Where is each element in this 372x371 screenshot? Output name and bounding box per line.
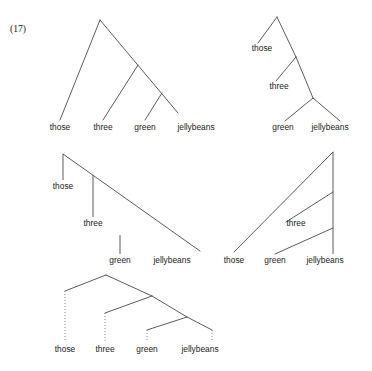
tree-branch-line [103, 65, 138, 120]
tree-branch-line [100, 20, 178, 113]
tree-branch-line [258, 17, 277, 43]
tree-5: thosethreegreenjellybeans [55, 275, 219, 354]
tree-4: thosegreenjellybeansthree [224, 152, 344, 265]
tree-word-label: those [252, 43, 273, 53]
tree-branch-line [106, 275, 152, 296]
tree-branch-line [147, 317, 187, 330]
tree-word-label: three [95, 344, 114, 354]
tree-branch-line [296, 57, 313, 98]
tree-word-label: those [53, 181, 74, 191]
example-number-label: (17) [10, 23, 26, 35]
tree-word-label: green [264, 255, 286, 265]
tree-word-label: those [224, 255, 245, 265]
tree-branch-line [313, 98, 340, 121]
tree-word-label: green [134, 122, 156, 132]
syntax-tree-figure: (17)thosethreegreenjellybeansthosethreeg… [0, 0, 372, 371]
tree-word-label: jellybeans [305, 255, 343, 265]
tree-word-label: those [50, 122, 71, 132]
tree-word-label: green [109, 255, 131, 265]
tree-word-label: three [286, 218, 305, 228]
tree-branch-line [63, 154, 200, 251]
tree-word-label: green [136, 344, 158, 354]
tree-branch-line [276, 57, 296, 81]
tree-word-label: jellybeans [310, 122, 348, 132]
tree-word-label: green [272, 122, 294, 132]
tree-1: thosethreegreenjellybeans [50, 20, 215, 132]
tree-word-label: jellybeans [152, 255, 190, 265]
tree-branch-line [105, 296, 152, 313]
tree-word-label: jellybeans [176, 122, 214, 132]
tree-branch-line [60, 20, 100, 120]
tree-3: thosethreegreenjellybeans [53, 154, 200, 265]
tree-word-label: three [269, 81, 288, 91]
tree-word-label: three [83, 218, 102, 228]
tree-2: thosethreegreenjellybeans [252, 17, 349, 132]
tree-word-label: jellybeans [180, 344, 218, 354]
tree-branch-line [277, 17, 296, 57]
tree-branch-line [65, 275, 106, 291]
tree-branch-line [145, 93, 162, 120]
tree-branch-line [285, 98, 313, 121]
tree-canvas: (17)thosethreegreenjellybeansthosethreeg… [0, 0, 372, 371]
tree-word-label: those [55, 344, 76, 354]
tree-branch-line [275, 228, 333, 254]
tree-word-label: three [93, 122, 112, 132]
tree-branch-line [187, 317, 212, 330]
tree-branch-line [152, 296, 187, 317]
